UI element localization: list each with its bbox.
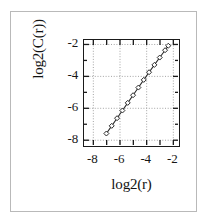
x-tick-label: -8 — [80, 152, 104, 166]
y-tick-label: -2 — [52, 36, 78, 49]
y-axis-title-wrapper: log2(C(r)) — [30, 0, 52, 104]
plot-area — [83, 39, 180, 147]
y-axis-title: log2(C(r)) — [30, 0, 47, 104]
y-tick-label: -8 — [52, 132, 78, 145]
x-tick-label: -6 — [107, 152, 131, 166]
x-tick-label: -2 — [160, 152, 184, 166]
x-tick-label: -4 — [134, 152, 158, 166]
x-axis-title: log2(r) — [83, 176, 180, 193]
y-tick-label: -6 — [52, 100, 78, 113]
data-series-layer — [84, 40, 178, 145]
plot-inner — [84, 40, 179, 146]
figure-container: -8-6-4-2 -2-4-6-8 log2(r) log2(C(r)) — [0, 0, 208, 223]
y-tick-label: -4 — [52, 68, 78, 81]
